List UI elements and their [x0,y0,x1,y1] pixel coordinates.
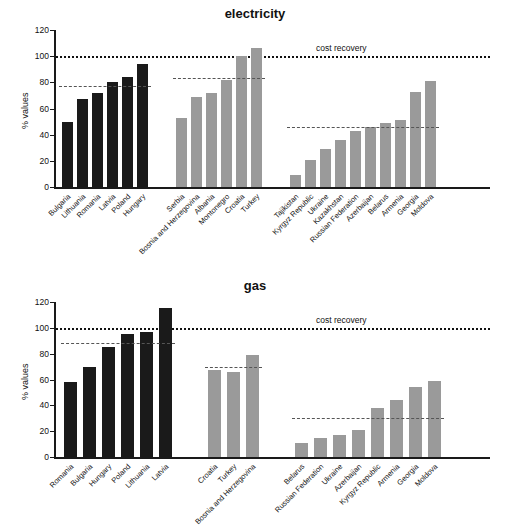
y-tick-label: 40 [27,130,49,140]
bar [409,387,422,457]
y-tick-label: 20 [27,156,49,166]
bar [107,82,118,187]
y-tick-mark [50,82,54,83]
bar [227,372,240,457]
y-tick-label: 60 [27,104,49,114]
bar [410,92,421,188]
bar [371,408,384,457]
bar [159,308,172,457]
x-axis-line [54,457,490,459]
y-tick-mark [50,328,54,329]
bar [122,77,133,187]
y-tick-mark [50,56,54,57]
bar [62,122,73,187]
bar [335,140,346,187]
x-axis-line [54,187,490,189]
y-tick-label: 120 [27,297,49,307]
bar [176,118,187,187]
group-average-line [292,418,444,419]
plot-area [54,30,490,187]
bar [352,430,365,457]
y-tick-mark [50,380,54,381]
bar [251,48,262,187]
y-tick-label: 80 [27,349,49,359]
bar [380,123,391,187]
group-average-line [205,367,262,368]
x-tick-label: Romania [47,462,75,490]
cost-recovery-line [56,328,490,330]
bar [314,438,327,457]
plot-area [54,302,490,457]
bar [77,99,88,187]
bar [395,120,406,187]
y-axis-line [54,302,56,457]
x-tick-label: Latvia [149,462,170,483]
y-tick-label: 0 [27,452,49,462]
bar [102,347,115,457]
bar [333,435,346,457]
bar [320,149,331,187]
cost-recovery-line [56,56,490,58]
y-tick-mark [50,30,54,31]
chart-panel-gas: gas% values020406080100120cost recoveryR… [0,266,510,532]
group-average-line [59,86,151,87]
y-tick-label: 120 [27,25,49,35]
x-tick-label: Croatia [195,462,218,485]
chart-panel-electricity: electricity% values020406080100120cost r… [0,0,510,266]
bar [350,131,361,187]
y-tick-label: 0 [27,182,49,192]
bar [290,175,301,187]
bar [208,370,221,457]
bar [64,382,77,457]
bar [425,81,436,187]
y-tick-mark [50,431,54,432]
y-tick-mark [50,457,54,458]
bar [137,64,148,187]
bar [140,332,153,457]
bar [236,56,247,187]
y-tick-mark [50,354,54,355]
y-tick-mark [50,109,54,110]
cost-recovery-label: cost recovery [316,315,367,325]
bar [121,334,134,457]
bar [295,443,308,457]
group-average-line [61,343,175,344]
bar [206,93,217,187]
y-tick-label: 100 [27,51,49,61]
group-average-line [173,78,265,79]
y-tick-label: 80 [27,77,49,87]
bar [92,93,103,187]
y-tick-label: 40 [27,400,49,410]
y-tick-mark [50,161,54,162]
y-tick-label: 20 [27,426,49,436]
bar [390,400,403,457]
y-tick-mark [50,187,54,188]
y-tick-mark [50,302,54,303]
bar [221,80,232,187]
chart-title: gas [0,278,510,293]
y-axis-line [54,30,56,187]
chart-title: electricity [0,6,510,21]
y-tick-mark [50,405,54,406]
bar [191,97,202,187]
y-tick-label: 60 [27,375,49,385]
y-tick-mark [50,135,54,136]
y-tick-label: 100 [27,323,49,333]
bar [365,127,376,187]
group-average-line [287,127,439,128]
cost-recovery-label: cost recovery [316,43,367,53]
bar [246,355,259,457]
bar [83,367,96,457]
bar [305,160,316,187]
